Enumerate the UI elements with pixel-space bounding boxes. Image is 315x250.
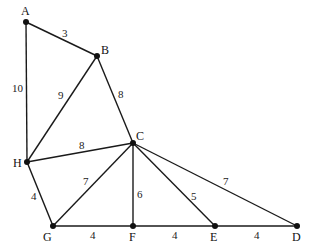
weight-a-b: 3: [62, 27, 68, 39]
weight-c-d: 7: [223, 175, 229, 187]
vertex-label-b: B: [101, 43, 109, 57]
graph-canvas: A B C D E F G H 3 10 9 8 8 4 7 6 5 7 4 4…: [0, 0, 315, 250]
vertex-d: [294, 223, 300, 229]
vertex-label-d: D: [292, 230, 301, 244]
vertex-label-e: E: [210, 230, 217, 244]
edge-c-e: [133, 143, 215, 226]
vertex-label-g: G: [43, 230, 52, 244]
graph-diagram: A B C D E F G H 3 10 9 8 8 4 7 6 5 7 4 4…: [0, 0, 315, 250]
edge-b-c: [97, 56, 133, 143]
weight-h-c: 8: [79, 139, 85, 151]
vertex-g: [50, 223, 56, 229]
weight-g-f: 4: [90, 229, 96, 241]
weight-h-g: 4: [31, 190, 37, 202]
weight-c-f: 6: [137, 188, 143, 200]
vertex-label-h: H: [13, 156, 22, 170]
weight-g-c: 7: [83, 175, 89, 187]
edge-c-d: [133, 143, 297, 226]
edge-a-h: [26, 22, 27, 162]
vertex-label-c: C: [136, 129, 144, 143]
weight-b-c: 8: [118, 88, 124, 100]
vertex-label-f: F: [129, 230, 136, 244]
vertex-f: [130, 223, 136, 229]
vertex-label-a: A: [21, 4, 30, 18]
weight-a-h: 10: [12, 82, 24, 94]
edge-b-h: [27, 56, 97, 162]
weight-b-h: 9: [58, 89, 64, 101]
vertex-b: [94, 53, 100, 59]
weight-e-d: 4: [254, 229, 260, 241]
weight-c-e: 5: [191, 190, 197, 202]
vertex-a: [23, 19, 29, 25]
vertex-e: [212, 223, 218, 229]
vertex-h: [24, 159, 30, 165]
weight-f-e: 4: [172, 229, 178, 241]
